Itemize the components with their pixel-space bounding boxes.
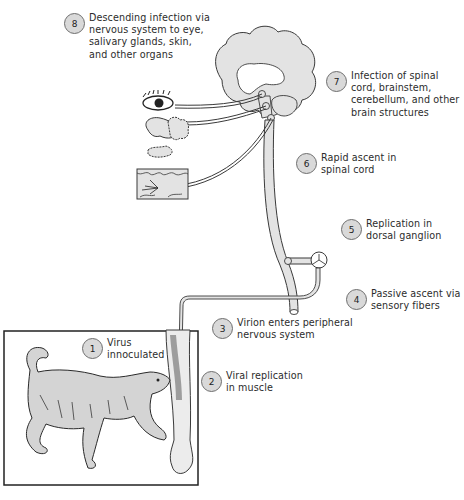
step-label: Passive ascent via sensory fibers <box>371 288 461 312</box>
step-label: Virus innoculated <box>107 337 164 361</box>
spinal-cord <box>264 120 298 312</box>
step-label: Viral replication in muscle <box>226 370 303 394</box>
step-badge: 8 <box>64 13 85 34</box>
step-label: Rapid ascent in spinal cord <box>321 152 396 176</box>
step-badge: 2 <box>201 371 222 392</box>
step-3: 3 Virion enters peripheral nervous syste… <box>212 317 353 341</box>
step-badge: 4 <box>346 289 367 310</box>
step-label: Replication in dorsal ganglion <box>366 218 441 242</box>
step-badge: 5 <box>341 219 362 240</box>
step-badge: 1 <box>82 338 103 359</box>
step-5: 5 Replication in dorsal ganglion <box>341 218 441 242</box>
rabies-pathogenesis-diagram: 8 Descending infection via nervous syste… <box>0 0 464 500</box>
step-7: 7 Infection of spinal cord, brainstem, c… <box>326 70 459 119</box>
skin-section-illustration <box>137 169 188 199</box>
step-label: Virion enters peripheral nervous system <box>237 317 353 341</box>
step-label: Descending infection via nervous system … <box>89 12 210 61</box>
salivary-gland-illustration <box>146 117 189 157</box>
step-badge: 6 <box>296 153 317 174</box>
dorsal-ganglion-illustration <box>285 252 328 268</box>
step-badge: 3 <box>212 318 233 339</box>
step-1: 1 Virus innoculated <box>82 337 164 361</box>
eye-illustration <box>143 90 173 110</box>
step-label: Infection of spinal cord, brainstem, cer… <box>351 70 459 119</box>
step-badge: 7 <box>326 71 347 92</box>
step-2: 2 Viral replication in muscle <box>201 370 303 394</box>
step-4: 4 Passive ascent via sensory fibers <box>346 288 461 312</box>
step-8: 8 Descending infection via nervous syste… <box>64 12 210 61</box>
step-6: 6 Rapid ascent in spinal cord <box>296 152 396 176</box>
brain-illustration <box>216 26 316 121</box>
